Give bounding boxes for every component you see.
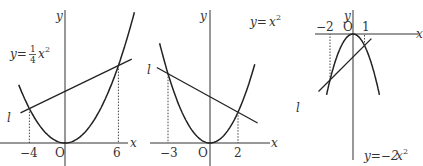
line-l bbox=[319, 39, 372, 92]
origin-label: O bbox=[198, 146, 208, 160]
curve-label-exp: 2 bbox=[45, 45, 50, 54]
line-label: l bbox=[296, 101, 300, 115]
parabola-curve bbox=[160, 43, 255, 143]
x-axis-label: x bbox=[416, 27, 423, 41]
x-axis-label: x bbox=[271, 136, 278, 150]
parabola-curve bbox=[19, 12, 135, 143]
x-tick-label-left: −4 bbox=[20, 146, 38, 160]
x-tick-label-right: 2 bbox=[234, 146, 242, 160]
curve-label-denominator: 4 bbox=[30, 55, 36, 65]
line-label: l bbox=[147, 63, 151, 77]
graph-1: y x O −4 6 l y= 1 4 x 2 bbox=[0, 9, 137, 166]
parabola-diagrams: y x O −4 6 l y= 1 4 x 2 y x O −3 2 l y= … bbox=[0, 0, 423, 166]
curve-label-var: x bbox=[38, 47, 45, 61]
curve-label-prefix: y= bbox=[249, 15, 267, 29]
x-tick-label-left: −3 bbox=[160, 146, 178, 160]
curve-label-var: x bbox=[269, 15, 276, 29]
curve-label-exp: 2 bbox=[276, 13, 281, 22]
curve-label-prefix: y=−2 bbox=[363, 149, 399, 163]
graph-2: y x O −3 2 l y= x 2 bbox=[147, 9, 281, 166]
x-tick-label-right: 1 bbox=[362, 20, 370, 34]
curve-label-var: x bbox=[396, 149, 403, 163]
x-axis-label: x bbox=[130, 136, 137, 150]
curve-label: y= 1 4 x 2 bbox=[9, 44, 50, 65]
curve-label: y=−2 x 2 bbox=[363, 147, 408, 163]
origin-label: O bbox=[343, 20, 353, 34]
y-axis-label: y bbox=[55, 9, 63, 23]
curve-label-numerator: 1 bbox=[30, 44, 36, 54]
origin-label: O bbox=[55, 146, 65, 160]
line-l bbox=[157, 68, 258, 123]
x-tick-label-left: −2 bbox=[316, 20, 334, 34]
x-tick-label-right: 6 bbox=[113, 146, 121, 160]
curve-label: y= x 2 bbox=[249, 13, 281, 29]
line-l bbox=[21, 59, 132, 113]
graph-3: y x O −2 1 l y=−2 x 2 bbox=[296, 9, 423, 163]
curve-label-exp: 2 bbox=[403, 147, 408, 156]
line-label: l bbox=[7, 111, 11, 125]
y-axis-label: y bbox=[199, 9, 207, 23]
curve-label-prefix: y= bbox=[9, 47, 27, 61]
